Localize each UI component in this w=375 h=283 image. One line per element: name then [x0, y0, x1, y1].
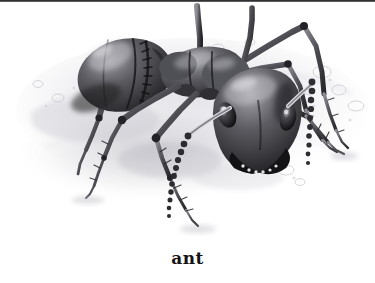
- ant-illustration: [0, 2, 375, 242]
- figure-caption: ant: [0, 248, 375, 268]
- illustration-page: ant: [0, 0, 375, 283]
